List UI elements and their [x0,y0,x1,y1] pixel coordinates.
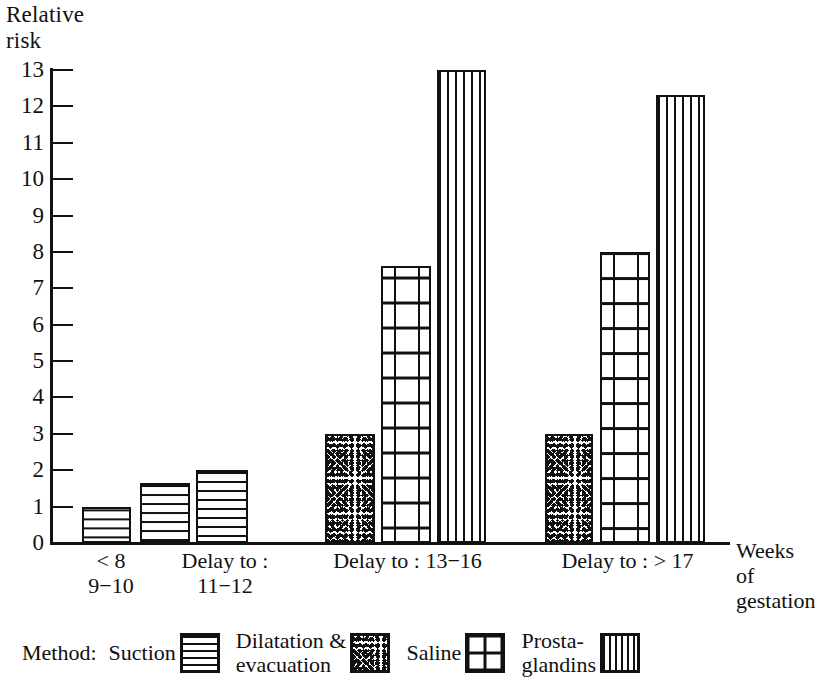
chart-legend: Method: SuctionDilatation & evacuationSa… [22,622,808,684]
legend-item: Suction [109,633,220,673]
y-tick-label: 4 [0,385,44,408]
y-tick-label: 0 [0,531,44,554]
legend-title: Method: [22,640,97,666]
bar [196,470,248,543]
vertical-lines-swatch [600,633,640,673]
legend-item-label: Prosta- glandins [521,629,596,677]
y-tick-label: 5 [0,349,44,372]
y-tick-mark [53,324,73,326]
bar [325,434,375,543]
y-tick-mark [53,287,73,289]
y-tick-label: 7 [0,276,44,299]
y-axis-title: Relative risk [6,2,84,54]
x-category-label: Delay to : 11−12 [150,548,300,598]
y-tick-mark [53,69,73,71]
legend-item: Prosta- glandins [521,629,640,677]
bar [600,252,650,543]
legend-item: Saline [406,633,505,673]
x-category-label: Delay to : 13−16 [300,548,515,573]
y-tick-label: 1 [0,495,44,518]
y-tick-label: 13 [0,58,44,81]
bar [82,507,131,543]
y-tick-mark [53,105,73,107]
y-tick-label: 10 [0,167,44,190]
x-axis-units-note: Weeks of gestation [736,538,815,613]
legend-item-label: Saline [406,641,461,665]
y-tick-mark [53,142,73,144]
y-tick-label: 9 [0,204,44,227]
y-tick-label: 2 [0,458,44,481]
bar [545,434,593,543]
y-tick-label: 3 [0,422,44,445]
y-tick-label: 11 [0,131,44,154]
y-tick-label: 12 [0,94,44,117]
y-axis-line [50,68,53,545]
y-tick-label: 8 [0,240,44,263]
y-tick-mark [53,178,73,180]
stipple-swatch [350,633,390,673]
y-tick-mark [53,251,73,253]
bar [140,483,190,543]
y-tick-mark [53,506,73,508]
horizontal-lines-swatch [180,633,220,673]
y-tick-mark [53,469,73,471]
y-tick-mark [53,360,73,362]
y-tick-mark [53,396,73,398]
y-tick-mark [53,433,73,435]
legend-item-label: Dilatation & evacuation [236,629,347,677]
bar [437,70,486,543]
x-category-label: Delay to : > 17 [520,548,735,573]
legend-item-label: Suction [109,641,176,665]
legend-item: Dilatation & evacuation [236,629,391,677]
y-tick-mark [53,215,73,217]
y-tick-label: 6 [0,313,44,336]
bar [381,266,431,543]
bar [656,95,705,543]
cross-grid-swatch [465,633,505,673]
